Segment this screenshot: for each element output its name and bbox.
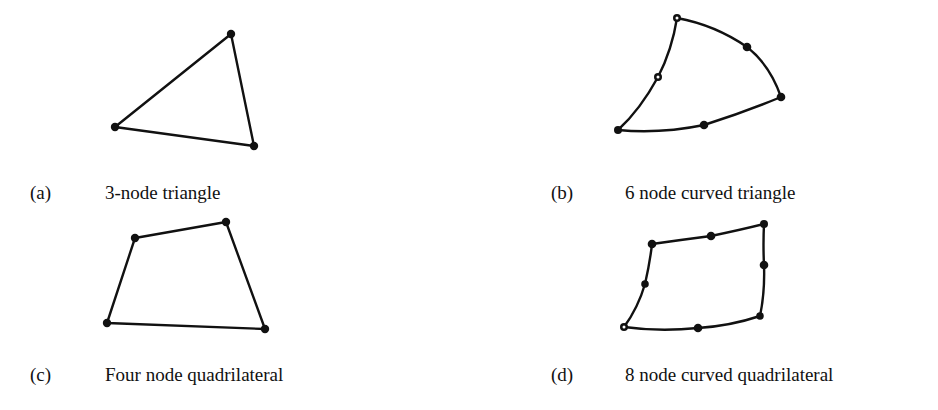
element-c-edges [107,222,265,329]
node-icon [777,93,786,102]
panel-b-id: (b) [551,182,573,204]
node-icon [103,319,111,327]
element-a-edges [115,34,254,146]
element-b-edges [618,18,781,131]
panel-d-id: (d) [551,364,573,386]
node-icon [227,30,235,38]
node-icon [694,324,703,333]
node-icon [756,312,764,320]
node-icon [261,325,269,333]
element-d-8-node-curved-quadrilateral [620,220,768,332]
node-hollow-center [623,326,626,329]
panel-a-caption: 3-node triangle [105,182,221,204]
panel-d-caption: 8 node curved quadrilateral [625,364,833,386]
panel-c-caption: Four node quadrilateral [105,364,283,386]
finite-element-diagram [0,0,938,410]
node-icon [222,218,230,226]
node-icon [760,220,768,228]
node-icon [760,261,769,270]
panel-a-id: (a) [30,182,51,204]
node-icon [641,280,649,288]
node-icon [111,123,119,131]
node-icon [743,43,752,52]
node-icon [250,142,258,150]
node-icon [700,121,709,130]
panel-b-caption: 6 node curved triangle [625,182,795,204]
element-c-four-node-quadrilateral [103,218,269,333]
node-icon [614,126,622,134]
node-icon [648,240,657,249]
element-a-3-node-triangle [111,30,258,150]
node-icon [131,234,139,242]
element-b-6-node-curved-triangle [614,14,785,134]
node-hollow-center [676,17,679,20]
node-icon [707,232,716,241]
element-d-edges [624,224,764,330]
panel-c-id: (c) [30,364,51,386]
node-hollow-center [657,76,660,79]
